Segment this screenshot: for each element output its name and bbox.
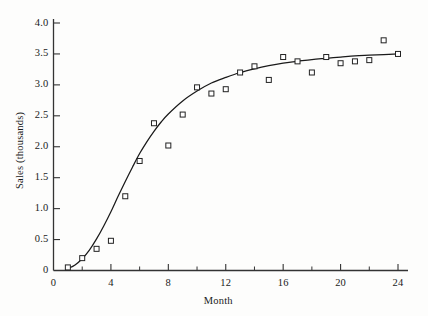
- data-point-marker: [80, 256, 85, 261]
- data-point-marker: [381, 38, 386, 43]
- data-point-marker: [281, 55, 286, 60]
- x-tick-label: 16: [263, 278, 303, 289]
- data-point-marker: [238, 70, 243, 75]
- data-point-marker: [309, 70, 314, 75]
- x-tick-label: 0: [34, 278, 74, 289]
- data-point-marker: [223, 87, 228, 92]
- y-tick-label: 1.5: [35, 172, 49, 183]
- fitted-curve: [68, 54, 398, 269]
- x-tick-label: 20: [321, 278, 361, 289]
- x-tick-label: 12: [206, 278, 246, 289]
- x-tick-label: 4: [91, 278, 131, 289]
- data-point-marker: [324, 55, 329, 60]
- fitted-curve-path: [68, 54, 398, 269]
- chart-plot-area: [0, 0, 428, 316]
- y-tick-label: 2.5: [35, 110, 49, 121]
- data-point-marker: [123, 194, 128, 199]
- x-axis-title: Month: [204, 295, 233, 306]
- y-tick-label: 2.0: [35, 141, 49, 152]
- data-point-marker: [151, 121, 156, 126]
- data-point-marker: [108, 238, 113, 243]
- data-point-marker: [166, 143, 171, 148]
- data-point-marker: [367, 58, 372, 63]
- data-point-marker: [195, 85, 200, 90]
- x-tick-label: 24: [378, 278, 418, 289]
- y-tick-label: 4.0: [35, 18, 49, 29]
- y-tick-label: 3.5: [35, 48, 49, 59]
- y-tick-label: 0: [43, 265, 48, 276]
- y-tick-label: 0.5: [35, 234, 49, 245]
- data-point-marker: [94, 246, 99, 251]
- y-axis-title: Sales (thousands): [14, 112, 25, 189]
- data-point-marker: [338, 61, 343, 66]
- data-point-marker: [266, 77, 271, 82]
- x-tick-label: 8: [148, 278, 188, 289]
- axis-tick-marks: [54, 23, 399, 271]
- sales-growth-chart: 00.51.01.52.02.53.03.54.0 04812162024 Mo…: [0, 0, 428, 316]
- data-point-marker: [396, 51, 401, 56]
- data-point-markers: [65, 38, 400, 270]
- axis-lines: [54, 19, 409, 271]
- data-point-marker: [295, 59, 300, 64]
- data-point-marker: [180, 112, 185, 117]
- data-point-marker: [65, 265, 70, 270]
- data-point-marker: [352, 59, 357, 64]
- y-tick-label: 1.0: [35, 203, 49, 214]
- data-point-marker: [252, 64, 257, 69]
- data-point-marker: [137, 158, 142, 163]
- y-tick-label: 3.0: [35, 79, 49, 90]
- data-point-marker: [209, 91, 214, 96]
